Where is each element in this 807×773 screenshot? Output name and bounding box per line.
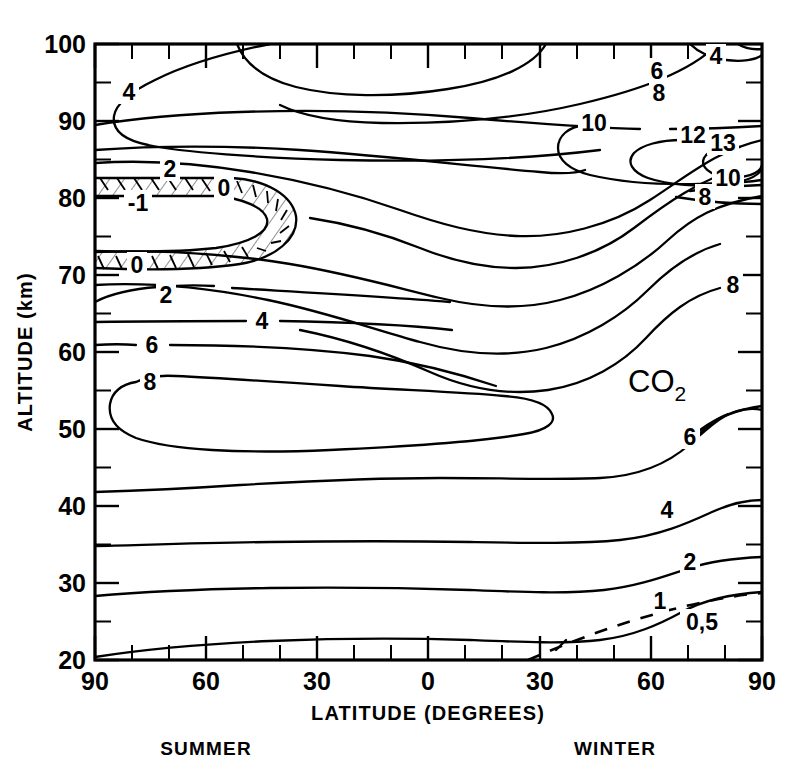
x-tick-label: 0 <box>421 667 435 695</box>
y-tick-label: 80 <box>58 184 86 212</box>
contour-label: 6 <box>142 332 162 358</box>
contour-label: 0,5 <box>680 609 724 635</box>
contour-label-text: 6 <box>146 332 159 358</box>
y-tick-label: 70 <box>58 261 86 289</box>
x-tick-labels: 90 60 30 0 30 60 90 <box>81 667 776 695</box>
contour-label: 0 <box>214 175 234 201</box>
y-tick-labels: 20 30 40 50 60 70 80 90 100 <box>44 30 86 674</box>
contour-label: 2 <box>160 156 180 182</box>
contour-label: 0 <box>127 252 147 278</box>
contour-label-text: 1 <box>654 588 667 614</box>
y-tick-label: 100 <box>44 30 86 58</box>
contour-label-text: 0 <box>131 252 144 278</box>
contour-label-text: 8 <box>653 80 666 106</box>
x-tick-label: 30 <box>526 667 554 695</box>
contour-6-left <box>95 344 136 345</box>
contour-label-text: 2 <box>164 156 177 182</box>
contour-label-text: 4 <box>661 497 674 523</box>
contour-label-text: 6 <box>684 424 697 450</box>
contour-figure: 4 2 0 -1 0 2 4 6 <box>0 0 807 773</box>
contour-label: 2 <box>680 549 700 575</box>
season-label-winter: WINTER <box>574 738 656 759</box>
contour-label-text: 4 <box>710 43 723 69</box>
contour-label: 2 <box>156 282 176 308</box>
x-tick-label: 60 <box>637 667 665 695</box>
contour-label: 1 <box>651 588 669 614</box>
contour-label-text: 2 <box>160 282 173 308</box>
contour-label-text: -1 <box>128 190 149 216</box>
contour-label-text: 10 <box>715 165 741 191</box>
x-tick-label: 60 <box>192 667 220 695</box>
y-tick-label: 20 <box>58 646 86 674</box>
y-axis-title: ALTITUDE (km) <box>14 272 36 431</box>
contour-label: 4 <box>119 79 139 105</box>
species-subscript-text: 2 <box>675 382 687 405</box>
contour-label-text: 8 <box>727 272 740 298</box>
contour-label-text: 8 <box>144 369 157 395</box>
contour-label: 10 <box>578 110 610 136</box>
x-tick-label: 90 <box>748 667 776 695</box>
x-axis-title: LATITUDE (DEGREES) <box>311 702 545 724</box>
contour-label: 6 <box>680 424 700 450</box>
contour-label-text: 10 <box>581 110 607 136</box>
contour-label: 8 <box>140 369 160 395</box>
contour-label-text: 2 <box>684 549 697 575</box>
contour-label: 4 <box>252 308 272 334</box>
contour-label-text: 0 <box>218 175 231 201</box>
contour-4-mid <box>95 321 246 322</box>
contour-label-text: 8 <box>699 184 712 210</box>
contour-label: 8 <box>695 184 715 210</box>
y-tick-label: 50 <box>58 415 86 443</box>
season-label-summer: SUMMER <box>160 738 252 759</box>
contour-label-text: 4 <box>256 308 269 334</box>
species-label-text: CO <box>628 364 675 399</box>
x-tick-label: 30 <box>303 667 331 695</box>
contour-label-text: 0,5 <box>686 609 718 635</box>
contour-label: 4 <box>706 43 726 69</box>
contour-label-text: 12 <box>680 122 706 148</box>
y-tick-label: 90 <box>58 107 86 135</box>
y-tick-label: 40 <box>58 492 86 520</box>
contour-label: 8 <box>723 272 743 298</box>
contour-label-text: 13 <box>710 130 736 156</box>
plot-area <box>95 44 762 660</box>
contour-label: 13 <box>707 130 739 156</box>
contour-label: 8 <box>649 80 669 106</box>
contour-label: 12 <box>677 122 709 148</box>
y-tick-label: 30 <box>58 569 86 597</box>
contour-label: -1 <box>124 190 152 216</box>
contour-label: 10 <box>712 165 744 191</box>
contour-label-text: 4 <box>123 79 136 105</box>
contour-label: 4 <box>657 497 677 523</box>
y-tick-label: 60 <box>58 338 86 366</box>
